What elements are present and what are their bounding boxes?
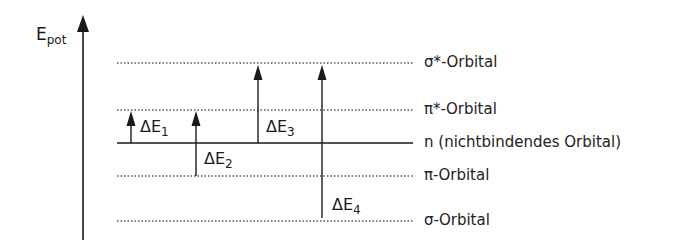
transition-dE1 [127,111,136,143]
arrowhead-icon [192,111,201,126]
arrowhead-icon [318,65,327,80]
level-label-pi-star: π*-Orbital [424,100,497,118]
axis-arrowhead-icon [77,15,89,32]
transition-label-main: ΔE [140,117,161,136]
level-label-n: n (nichtbindendes Orbital) [424,133,621,151]
transition-dE4 [318,65,327,218]
arrowhead-icon [254,65,263,80]
transition-label-sub: 4 [353,203,361,217]
orbital-levels [117,63,413,221]
transition-label-sub: 2 [225,157,233,171]
axis-label-sub: pot [47,33,67,47]
transition-label-dE2: ΔE2 [204,150,233,169]
energy-axis [77,15,89,240]
transition-label-dE4: ΔE4 [332,196,361,215]
transition-label-dE1: ΔE1 [140,118,169,137]
arrowhead-icon [127,111,136,126]
transition-dE3 [254,65,263,143]
transition-label-main: ΔE [332,195,353,214]
transition-label-sub: 1 [161,125,169,139]
level-label-sigma: σ-Orbital [424,211,490,229]
level-label-pi: π-Orbital [424,166,489,184]
transition-label-main: ΔE [204,149,225,168]
transition-label-dE3: ΔE3 [266,118,295,137]
transition-arrows [127,65,327,218]
transition-label-sub: 3 [287,125,295,139]
level-label-sigma-star: σ*-Orbital [424,53,497,71]
transition-label-main: ΔE [266,117,287,136]
energy-axis-label: Epot [36,24,66,46]
axis-label-main: E [36,24,47,44]
